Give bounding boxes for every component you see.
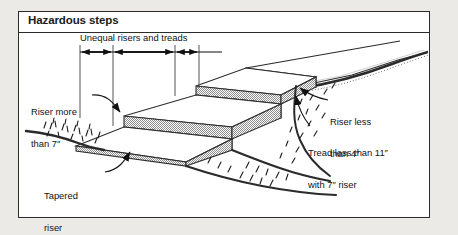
callout-line-2: than 7″ xyxy=(31,139,77,150)
callout-line-1: Riser more xyxy=(31,107,77,118)
callout-tapered-riser: Tapered riser xyxy=(44,170,78,235)
callout-line-1: Tread less than 11″ xyxy=(308,148,388,159)
callout-line-2: with 7″ riser xyxy=(308,180,388,191)
callout-line-2: riser xyxy=(44,223,78,234)
leader-tread-less xyxy=(296,96,310,126)
callout-line-1: Tapered xyxy=(44,191,78,202)
callout-riser-more-than-7: Riser more than 7″ xyxy=(31,86,77,171)
callout-tread-less-than-11: Tread less than 11″ with 7″ riser xyxy=(308,127,388,212)
dimension-label: Unequal risers and treads xyxy=(80,33,187,44)
hazardous-steps-figure: Hazardous steps xyxy=(0,0,458,235)
leader-riser-more xyxy=(92,95,120,112)
